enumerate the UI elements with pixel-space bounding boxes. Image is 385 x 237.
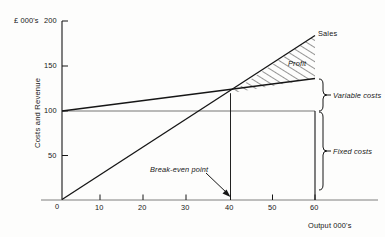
variable-costs-label: Variable costs <box>333 91 381 100</box>
y-tick-label-50: 50 <box>48 151 57 160</box>
x-tick-label-10: 10 <box>95 203 104 212</box>
x-tick-label-40: 40 <box>225 203 234 212</box>
x-axis-ticks <box>100 195 315 201</box>
x-axis-title: Output 000's <box>308 221 351 230</box>
x-tick-label-60: 60 <box>310 203 319 212</box>
fixed-costs-label: Fixed costs <box>333 147 372 156</box>
y-tick-label-100: 100 <box>44 106 57 115</box>
y-axis-ticks <box>62 21 68 156</box>
x-tick-label-50: 50 <box>268 203 277 212</box>
x-tick-label-30: 30 <box>181 203 190 212</box>
y-axis-unit-label: £ 000's <box>14 16 39 25</box>
x-tick-label-20: 20 <box>138 203 147 212</box>
variable-costs-bracket <box>319 79 331 111</box>
y-axis-title: Costs and Revenue <box>33 78 42 148</box>
sales-label: Sales <box>318 29 337 38</box>
y-tick-label-200: 200 <box>44 16 57 25</box>
break-even-chart: £ 000's 200 150 100 50 0 Costs and Reven… <box>0 0 385 237</box>
fixed-costs-bracket <box>319 112 331 190</box>
break-even-arrow <box>206 173 231 197</box>
break-even-point-label: Break-even point <box>150 165 208 174</box>
y-tick-label-0: 0 <box>55 202 59 211</box>
y-tick-label-150: 150 <box>44 61 57 70</box>
sales-line <box>62 36 315 200</box>
profit-label: Profit <box>288 59 306 68</box>
